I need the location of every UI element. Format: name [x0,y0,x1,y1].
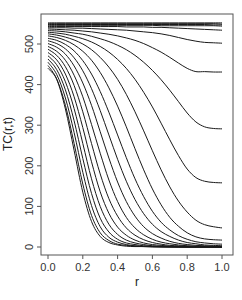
y-tick-label: 200 [23,157,35,175]
line-chart: 0.00.20.40.60.81.0 0100200300400500 r TC… [0,0,242,300]
x-tick-label: 1.0 [214,261,229,273]
x-tick-label: 0.6 [145,261,160,273]
y-tick-label: 400 [23,75,35,93]
series-line-t4 [48,25,222,26]
y-tick-label: 300 [23,116,35,134]
x-tick-label: 0.0 [40,261,55,273]
x-tick-label: 0.8 [180,261,195,273]
y-tick-label: 500 [23,35,35,53]
y-axis-label: TC(r,t) [1,117,15,151]
y-tick-label: 100 [23,197,35,215]
series-line-t19 [48,59,222,247]
x-axis-label: r [135,275,139,289]
y-tick-label: 0 [23,244,35,250]
x-tick-label: 0.4 [110,261,125,273]
x-axis: 0.00.20.40.60.81.0 [40,255,229,273]
series-lines [48,23,222,247]
series-line-t20 [48,62,222,247]
y-axis: 0100200300400500 [23,35,41,250]
x-tick-label: 0.2 [75,261,90,273]
